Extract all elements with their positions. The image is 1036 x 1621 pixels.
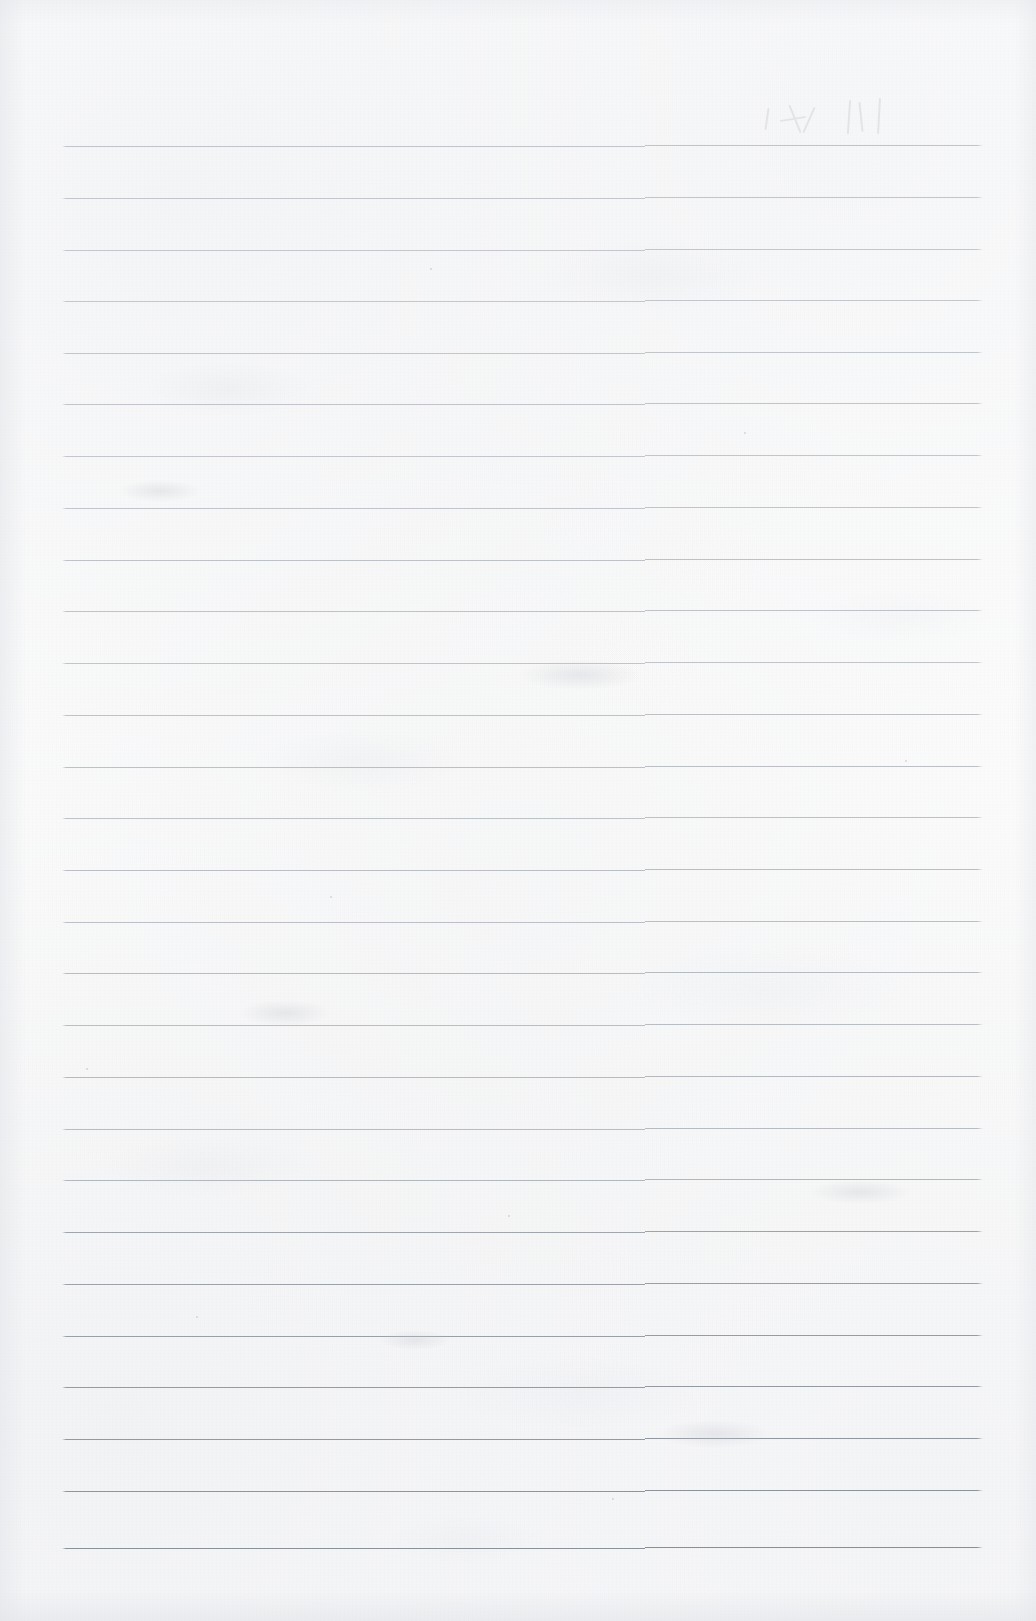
paper-smudge bbox=[660, 1420, 770, 1448]
scan-artifacts-layer bbox=[0, 0, 1036, 1621]
paper-smudge bbox=[240, 1000, 330, 1026]
paper-speck bbox=[508, 1215, 510, 1217]
paper-smudge bbox=[810, 1180, 910, 1204]
paper-speck bbox=[612, 1498, 614, 1500]
paper-speck bbox=[744, 432, 746, 434]
paper-smudge bbox=[520, 660, 640, 690]
paper-smudge bbox=[120, 480, 200, 502]
paper-speck bbox=[905, 760, 907, 762]
paper-speck bbox=[86, 1068, 88, 1070]
paper-smudge bbox=[380, 1330, 450, 1350]
paper-speck bbox=[196, 1316, 198, 1318]
paper-speck bbox=[330, 896, 332, 898]
paper-speck bbox=[430, 268, 432, 270]
scanned-page bbox=[0, 0, 1036, 1621]
